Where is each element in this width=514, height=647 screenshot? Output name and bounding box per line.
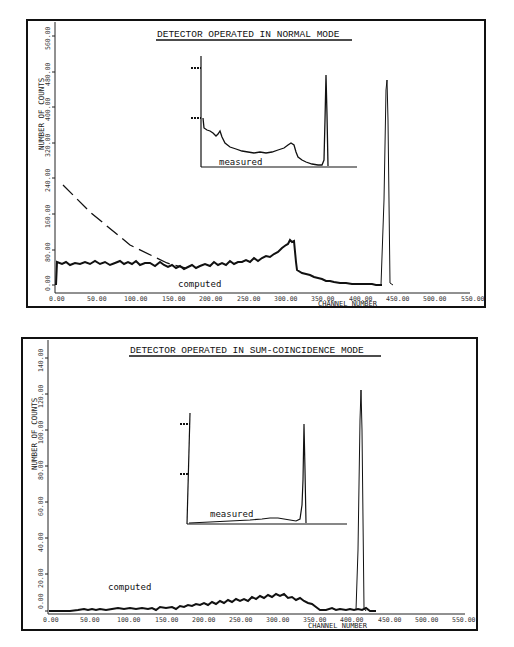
svg-text:150.00: 150.00 bbox=[162, 295, 186, 303]
svg-text:40.00: 40.00 bbox=[37, 532, 45, 552]
svg-text:160.00: 160.00 bbox=[44, 204, 52, 228]
svg-text:100.00: 100.00 bbox=[117, 616, 141, 624]
svg-text:250.00: 250.00 bbox=[229, 616, 253, 624]
svg-text:20.00: 20.00 bbox=[37, 568, 45, 588]
svg-text:500.00: 500.00 bbox=[415, 616, 439, 624]
chart-normal-mode: 0.00 80.00 160.00 240.00 320.00 400.00 4… bbox=[0, 0, 514, 320]
figure-sum-coincidence-mode: 0.00 20.00 40.00 60.00 80.00 100.00 120.… bbox=[0, 320, 514, 647]
svg-text:60.00: 60.00 bbox=[37, 496, 45, 516]
svg-text:100.00: 100.00 bbox=[124, 295, 148, 303]
chart-title: DETECTOR OPERATED IN SUM-COINCIDENCE MOD… bbox=[130, 345, 364, 356]
measured-label: measured bbox=[210, 509, 253, 519]
computed-label: computed bbox=[178, 279, 221, 289]
x-tick-labels: 0.00 50.00 100.00 150.00 200.00 250.00 3… bbox=[43, 616, 476, 624]
inset-measured: measured bbox=[191, 56, 357, 167]
svg-text:550.00: 550.00 bbox=[452, 616, 476, 624]
svg-text:560.00: 560.00 bbox=[44, 26, 52, 50]
svg-text:50.00: 50.00 bbox=[87, 295, 107, 303]
x-axis-label: CHANNEL NUMBER bbox=[318, 300, 378, 308]
svg-text:140.00: 140.00 bbox=[37, 348, 45, 372]
computed-label: computed bbox=[108, 582, 151, 592]
x-axis-label: CHANNEL NUMBER bbox=[308, 622, 368, 630]
svg-text:150.00: 150.00 bbox=[155, 616, 179, 624]
svg-text:550.00: 550.00 bbox=[461, 295, 485, 303]
svg-text:0.00: 0.00 bbox=[43, 616, 59, 624]
svg-text:80.00: 80.00 bbox=[44, 242, 52, 262]
svg-text:500.00: 500.00 bbox=[423, 295, 447, 303]
measured-series-line bbox=[203, 75, 328, 166]
computed-main-peak bbox=[356, 390, 366, 611]
chart-title: DETECTOR OPERATED IN NORMAL MODE bbox=[157, 29, 340, 40]
svg-text:0.00: 0.00 bbox=[44, 275, 52, 291]
svg-text:250.00: 250.00 bbox=[237, 295, 261, 303]
y-axis-label: NUMBER OF COUNTS bbox=[30, 397, 39, 470]
y-tick-labels: 0.00 80.00 160.00 240.00 320.00 400.00 4… bbox=[44, 26, 52, 291]
computed-series-line bbox=[49, 594, 376, 611]
svg-text:0.00: 0.00 bbox=[37, 593, 45, 609]
measured-label: measured bbox=[219, 157, 262, 167]
svg-text:450.00: 450.00 bbox=[386, 295, 410, 303]
computed-main-peak bbox=[381, 80, 393, 285]
svg-text:200.00: 200.00 bbox=[199, 295, 223, 303]
svg-text:450.00: 450.00 bbox=[378, 616, 402, 624]
computed-dashed-envelope bbox=[63, 185, 185, 268]
y-axis-label: NUMBER OF COUNTS bbox=[37, 77, 46, 150]
svg-text:300.00: 300.00 bbox=[274, 295, 298, 303]
inset-measured: measured bbox=[180, 413, 347, 524]
svg-text:300.00: 300.00 bbox=[266, 616, 290, 624]
y-tick-labels: 0.00 20.00 40.00 60.00 80.00 100.00 120.… bbox=[37, 348, 45, 609]
svg-text:200.00: 200.00 bbox=[192, 616, 216, 624]
frame bbox=[22, 338, 477, 630]
svg-text:50.00: 50.00 bbox=[80, 616, 100, 624]
x-tick-labels: 0.00 50.00 100.00 150.00 200.00 250.00 3… bbox=[49, 295, 485, 303]
chart-sum-coincidence-mode: 0.00 20.00 40.00 60.00 80.00 100.00 120.… bbox=[0, 320, 514, 647]
svg-text:240.00: 240.00 bbox=[44, 168, 52, 192]
figure-normal-mode: 0.00 80.00 160.00 240.00 320.00 400.00 4… bbox=[0, 0, 514, 320]
svg-text:0.00: 0.00 bbox=[49, 295, 65, 303]
